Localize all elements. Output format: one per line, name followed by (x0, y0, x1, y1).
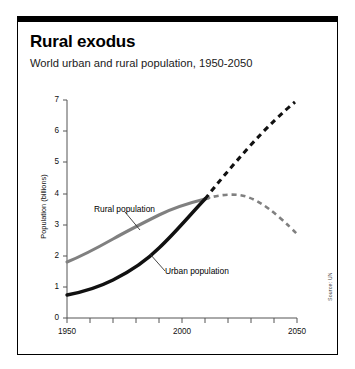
rural-line-dashed (205, 195, 297, 234)
x-tick-label-2000: 2000 (162, 327, 202, 336)
y-axis-label: Population (billions) (39, 162, 48, 252)
chart-svg (17, 16, 338, 355)
plot-area: 0 1 2 3 4 5 6 7 1950 2000 2050 Populatio… (17, 16, 338, 355)
y-tick-label-6: 6 (43, 126, 59, 135)
chart-figure: Rural exodus World urban and rural popul… (17, 16, 338, 355)
x-axis-ticks (67, 318, 297, 323)
urban-label-leader-line (150, 254, 165, 271)
y-axis-ticks (63, 100, 67, 318)
y-tick-label-2: 2 (43, 251, 59, 260)
y-tick-label-0: 0 (43, 313, 59, 322)
urban-line-dashed (205, 102, 295, 199)
x-tick-label-1950: 1950 (47, 327, 87, 336)
y-tick-label-7: 7 (43, 95, 59, 104)
urban-series-label: Urban population (165, 266, 229, 276)
rural-series-label: Rural population (94, 204, 155, 214)
x-tick-label-2050: 2050 (277, 327, 317, 336)
source-note: Source: UN (327, 272, 333, 301)
y-tick-label-1: 1 (43, 282, 59, 291)
